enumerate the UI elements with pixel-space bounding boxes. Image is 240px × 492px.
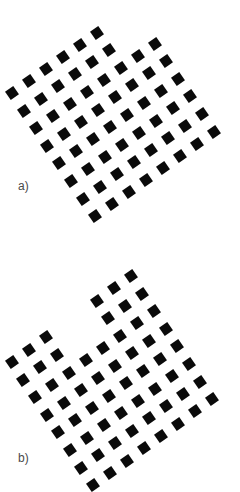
- square: [86, 478, 100, 492]
- square: [182, 357, 196, 371]
- square: [97, 418, 111, 432]
- square: [16, 373, 30, 387]
- square: [142, 334, 156, 348]
- figure-b: b): [0, 0, 240, 492]
- square: [119, 376, 133, 390]
- square: [125, 346, 139, 360]
- square: [137, 441, 151, 455]
- square: [113, 329, 127, 343]
- square: [188, 404, 202, 418]
- square: [28, 390, 42, 404]
- figure-b-label: b): [18, 452, 29, 464]
- square: [125, 424, 139, 438]
- square: [33, 360, 47, 374]
- square: [96, 341, 110, 355]
- square: [142, 411, 156, 425]
- square: [147, 304, 161, 318]
- square: [120, 454, 134, 468]
- square: [118, 299, 132, 313]
- square: [74, 461, 88, 475]
- square: [39, 330, 53, 344]
- square: [5, 355, 19, 369]
- square: [154, 429, 168, 443]
- square: [80, 431, 94, 445]
- square: [165, 369, 179, 383]
- square: [51, 425, 65, 439]
- square: [103, 466, 117, 480]
- square: [62, 366, 76, 380]
- square: [193, 375, 207, 389]
- square: [114, 406, 128, 420]
- square: [205, 392, 219, 406]
- square: [68, 413, 82, 427]
- square: [63, 443, 77, 457]
- square: [57, 396, 71, 410]
- square: [148, 382, 162, 396]
- square: [74, 383, 88, 397]
- square: [91, 371, 105, 385]
- square: [136, 364, 150, 378]
- square: [170, 339, 184, 353]
- square: [91, 448, 105, 462]
- square: [50, 348, 64, 362]
- square: [176, 387, 190, 401]
- square: [159, 322, 173, 336]
- square: [40, 408, 54, 422]
- square: [108, 436, 122, 450]
- square: [124, 269, 138, 283]
- square: [101, 311, 115, 325]
- square: [153, 352, 167, 366]
- square: [45, 378, 59, 392]
- square: [130, 316, 144, 330]
- square: [131, 394, 145, 408]
- square: [159, 399, 173, 413]
- square: [102, 389, 116, 403]
- square: [107, 281, 121, 295]
- square: [85, 401, 99, 415]
- square: [79, 353, 93, 367]
- square: [135, 287, 149, 301]
- square: [22, 343, 36, 357]
- square: [171, 417, 185, 431]
- square: [90, 294, 104, 308]
- square: [108, 359, 122, 373]
